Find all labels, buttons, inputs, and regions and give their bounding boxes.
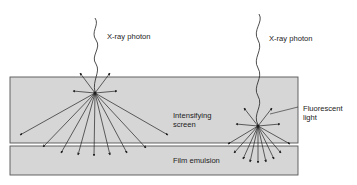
photon-label-left: X-ray photon: [107, 32, 150, 41]
film-emulsion-band: [10, 146, 298, 175]
film-emulsion-label: Film emulsion: [173, 156, 220, 165]
fluorescent-label-line2: light: [303, 113, 318, 122]
screen-label-line1: Intensifying: [173, 111, 211, 120]
fluorescent-label-line1: Fluorescent: [303, 104, 344, 113]
photon-label-right: X-ray photon: [269, 34, 312, 43]
intensifying-screen-diagram: X-ray photon X-ray photon Intensifying s…: [0, 0, 357, 185]
screen-label-line2: screen: [173, 120, 196, 129]
